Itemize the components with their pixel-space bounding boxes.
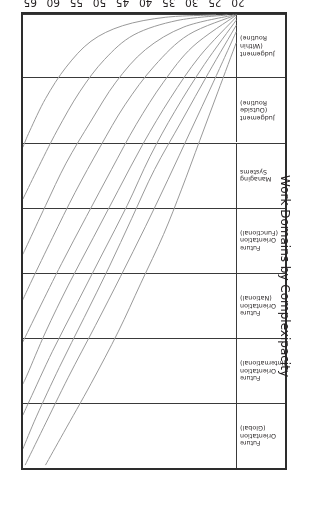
x-tick-label: 35 [162, 0, 175, 9]
band-label-text: Future Orientation (National) [240, 294, 276, 317]
x-tick-label: 40 [139, 0, 152, 9]
x-tick-label: 55 [70, 0, 83, 9]
band-row: Judgement (Outside Routine) [23, 77, 285, 142]
band-label-text: Managing Systems [240, 168, 271, 183]
x-tick-label: 65 [24, 0, 37, 9]
complexipacity-chart: Future Orientation (Global) Future Orien… [0, 0, 335, 505]
band-label-text: Future Orientation (Functional) [240, 229, 278, 252]
x-tick-label: 20 [231, 0, 244, 9]
x-tick-label: 30 [185, 0, 198, 9]
band-row: Judgement (Within Routine) [23, 14, 285, 77]
band-label-text: Judgement (Within Routine) [240, 35, 275, 58]
x-tick-label: 45 [116, 0, 129, 9]
x-tick-label: 60 [47, 0, 60, 9]
y-axis-title: Work Domains by Complexipacity [278, 16, 292, 505]
x-tick-label: 25 [208, 0, 221, 9]
band-row: Managing Systems [23, 143, 285, 208]
x-axis-ticks: 20253035404550556065 [21, 0, 287, 12]
band-row: Future Orientation (Global) [23, 403, 285, 468]
band-row: Future Orientation (Functional) [23, 208, 285, 273]
x-tick-label: 50 [93, 0, 106, 9]
band-label-text: Judgement (Outside Routine) [240, 99, 275, 122]
band-row: Future Orientation (International) [23, 338, 285, 403]
rotated-figure-wrapper: Future Orientation (Global) Future Orien… [0, 0, 335, 505]
band-row: Future Orientation (National) [23, 273, 285, 338]
plot-frame: Future Orientation (Global) Future Orien… [21, 12, 287, 470]
band-label-text: Future Orientation (Global) [240, 425, 276, 448]
